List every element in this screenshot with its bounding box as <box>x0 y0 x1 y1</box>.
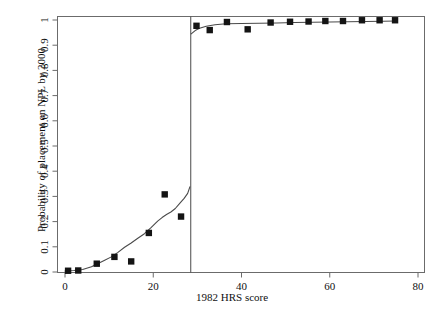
svg-text:40: 40 <box>236 280 248 292</box>
svg-text:20: 20 <box>148 280 160 292</box>
figure-container: 02040608000.10.20.30.40.50.60.70.80.91 P… <box>0 0 438 317</box>
y-axis-title: Probability of placement on NPL by 2000 <box>35 15 47 265</box>
axis-tick-labels: 02040608000.10.20.30.40.50.60.70.80.91 <box>38 17 425 291</box>
svg-text:60: 60 <box>324 280 336 292</box>
x-axis-title: 1982 HRS score <box>196 291 268 303</box>
data-points <box>65 17 398 274</box>
axis-ticks <box>53 20 419 278</box>
fitted-curves <box>65 21 396 271</box>
plot-frame <box>58 17 425 273</box>
svg-text:80: 80 <box>413 280 425 292</box>
chart-canvas: 02040608000.10.20.30.40.50.60.70.80.91 <box>0 0 438 317</box>
svg-text:0: 0 <box>62 280 68 292</box>
svg-text:0: 0 <box>38 269 50 275</box>
